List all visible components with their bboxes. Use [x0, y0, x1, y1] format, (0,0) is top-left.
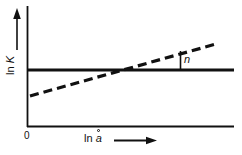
origin-label: 0: [24, 131, 30, 141]
y-axis-label: ln K: [5, 46, 16, 86]
plot-canvas: [0, 0, 242, 155]
x-axis-label: ln a: [84, 133, 102, 144]
y-axis-arrow-icon: [13, 8, 21, 50]
y-axis-label-symbol: K: [4, 56, 16, 63]
x-axis-arrow-icon: [114, 137, 157, 145]
x-axis-label-symbol-group: a: [96, 133, 102, 144]
x-axis-label-prefix: ln: [84, 132, 96, 144]
x-axis-label-symbol: a: [96, 132, 102, 144]
angle-label: n: [184, 54, 190, 65]
figure-container: ln K ln a 0 n: [0, 0, 242, 155]
ring-accent-icon: [97, 129, 100, 132]
y-axis-label-prefix: ln: [4, 63, 16, 75]
